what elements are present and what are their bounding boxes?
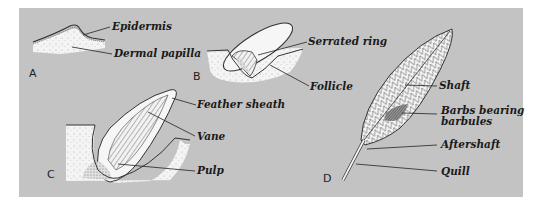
dermal-papilla-shape xyxy=(33,28,105,54)
label-pulp: Pulp xyxy=(196,164,225,176)
label-serrated-ring: Serrated ring xyxy=(308,35,387,47)
panel-b: Serrated ring Follicle B xyxy=(193,15,387,92)
leader-feather-sheath xyxy=(172,98,196,105)
panel-letter-c: C xyxy=(47,168,55,181)
leader-epidermis xyxy=(83,27,110,35)
leader-quill xyxy=(356,164,437,171)
panel-d: Shaft Barbs bearing barbules Aftershaft … xyxy=(323,29,524,185)
label-barbules: barbules xyxy=(441,115,492,127)
label-shaft: Shaft xyxy=(439,79,471,91)
leader-aftershaft xyxy=(367,145,437,149)
label-epidermis: Epidermis xyxy=(111,20,172,32)
feather-development-diagram: Epidermis Dermal papilla A Serrated ring… xyxy=(0,0,542,206)
panel-letter-a: A xyxy=(29,67,37,80)
label-dermal-papilla: Dermal papilla xyxy=(113,47,201,59)
panel-a: Epidermis Dermal papilla A xyxy=(29,20,201,80)
shaft-d xyxy=(364,31,450,140)
label-aftershaft: Aftershaft xyxy=(440,138,500,150)
panel-c: Feather sheath Vane Pulp C xyxy=(47,90,285,183)
label-feather-sheath: Feather sheath xyxy=(196,98,285,110)
label-vane: Vane xyxy=(197,130,226,142)
panel-letter-d: D xyxy=(323,172,331,185)
label-follicle: Follicle xyxy=(309,80,353,92)
quill-d-inner xyxy=(343,140,364,180)
label-quill: Quill xyxy=(441,165,470,177)
panel-letter-b: B xyxy=(193,70,201,83)
